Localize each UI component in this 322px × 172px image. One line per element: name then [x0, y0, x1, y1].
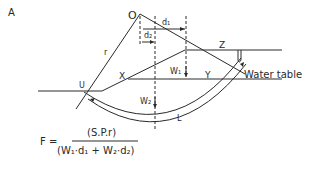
y-arrowhead [240, 62, 244, 67]
label-z: Z [219, 40, 225, 50]
w1-arrowhead [184, 73, 188, 77]
formula-lhs: F = [40, 136, 57, 147]
label-d2: d₂ [144, 31, 152, 40]
panel-label: A [8, 7, 15, 18]
d1-arrowhead [180, 27, 185, 31]
w2-arrowhead [153, 104, 157, 108]
formula-numerator: (S.P.r) [87, 127, 116, 138]
label-d1: d₁ [162, 18, 170, 27]
label-l: L [177, 114, 182, 123]
label-w2: W₂ [140, 97, 151, 106]
radius-line [76, 14, 140, 109]
label-y: Y [204, 70, 211, 80]
label-o: O [128, 9, 137, 22]
label-water-table: Water table [244, 69, 302, 80]
slip-arc-outer [88, 64, 246, 122]
formula-denominator: (W₁·d₁ + W₂·d₂) [57, 145, 134, 156]
label-w1: W₁ [170, 67, 181, 76]
label-u: U [79, 81, 85, 90]
slip-arc [84, 58, 241, 114]
label-r: r [104, 48, 108, 57]
d2-arrowhead [150, 40, 154, 44]
label-x: X [119, 71, 125, 81]
